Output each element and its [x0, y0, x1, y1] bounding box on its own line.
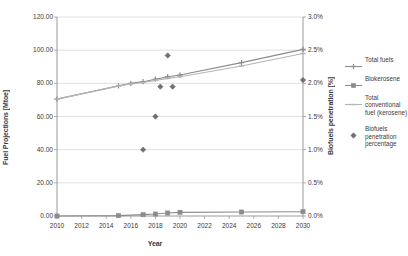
y-axis-left-tick-4: 80.00 [14, 79, 53, 86]
legend-marker-icon [345, 76, 362, 85]
legend-marker-icon [345, 126, 362, 135]
y-axis-right-tick-2: 1.0% [308, 146, 330, 153]
legend-item-0[interactable]: Total fuels [345, 56, 408, 66]
y-axis-left-tick-2: 40.00 [14, 146, 53, 153]
y-axis-left-tick-1: 20.00 [14, 179, 53, 186]
legend-marker-icon [345, 57, 362, 66]
legend-marker-icon [345, 95, 362, 104]
y-axis-right-tick-4: 2.0% [308, 79, 330, 86]
y-axis-right-tick-0: 0.0% [308, 212, 330, 219]
legend-item-label: Biofuels penetration percentage [365, 125, 397, 147]
legend-item-label: Total fuels [365, 56, 393, 63]
y-axis-left-tick-5: 100.00 [14, 46, 53, 53]
legend-item-1[interactable]: Biokerosene [345, 75, 408, 85]
legend-item-label: Total conventional fuel (kerosene) [365, 94, 407, 116]
chart-legend: Total fuelsBiokeroseneTotal conventional… [345, 56, 408, 156]
y-axis-left-tick-3: 60.00 [14, 113, 53, 120]
y-axis-right-tick-5: 2.5% [308, 46, 330, 53]
y-axis-left-tick-0: 0.00 [14, 212, 53, 219]
legend-item-2[interactable]: Total conventional fuel (kerosene) [345, 94, 408, 116]
y-axis-right-tick-3: 1.5% [308, 113, 330, 120]
y-axis-right-tick-1: 0.5% [308, 179, 330, 186]
legend-item-label: Biokerosene [365, 75, 400, 82]
y-axis-right-tick-6: 3.0% [308, 13, 330, 20]
y-axis-left-tick-6: 120.00 [14, 13, 53, 20]
legend-item-3[interactable]: Biofuels penetration percentage [345, 125, 408, 147]
x-axis-tick-10: 2030 [288, 222, 318, 229]
chart-container: Fuel Projections [Mtoe] Biofuels penetra… [0, 0, 408, 256]
